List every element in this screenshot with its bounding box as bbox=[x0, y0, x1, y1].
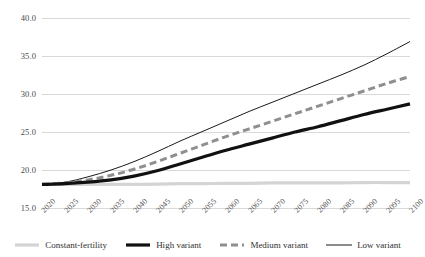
legend-label: Constant-fertility bbox=[45, 241, 107, 250]
series-line-medium-variant bbox=[42, 77, 410, 185]
legend-swatch-dashed-gray bbox=[219, 240, 245, 250]
legend-label: High variant bbox=[156, 241, 201, 250]
legend-item-low-variant[interactable]: Low variant bbox=[326, 240, 401, 250]
legend-label: Low variant bbox=[357, 241, 401, 250]
legend-item-constant-fertility[interactable]: Constant-fertility bbox=[14, 240, 107, 250]
x-tick-label: 2100 bbox=[408, 197, 425, 214]
legend-swatch-solid-thick-black bbox=[125, 240, 151, 250]
legend-item-medium-variant[interactable]: Medium variant bbox=[219, 240, 308, 250]
y-tick-label: 15.0 bbox=[21, 204, 36, 213]
y-axis: 40.035.030.025.020.015.0 bbox=[0, 18, 40, 208]
y-tick-label: 20.0 bbox=[21, 166, 36, 175]
chart-legend: Constant-fertilityHigh variantMedium var… bbox=[0, 236, 415, 254]
legend-label: Medium variant bbox=[250, 241, 308, 250]
x-axis: 2020202520302035204020452050205520602065… bbox=[42, 209, 410, 235]
legend-swatch-solid-thick-light bbox=[14, 240, 40, 250]
y-tick-label: 25.0 bbox=[21, 128, 36, 137]
plot-area bbox=[42, 18, 410, 208]
legend-swatch-solid-thin-black bbox=[326, 240, 352, 250]
series-lines bbox=[42, 18, 410, 208]
y-tick-label: 35.0 bbox=[21, 52, 36, 61]
legend-item-high-variant[interactable]: High variant bbox=[125, 240, 201, 250]
y-tick-label: 40.0 bbox=[21, 14, 36, 23]
series-line-high-variant bbox=[42, 104, 410, 185]
y-tick-label: 30.0 bbox=[21, 90, 36, 99]
series-line-low-variant bbox=[42, 42, 410, 185]
